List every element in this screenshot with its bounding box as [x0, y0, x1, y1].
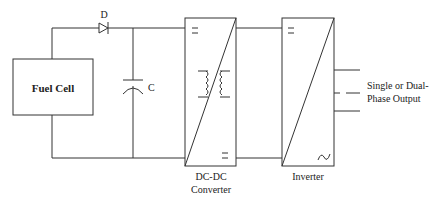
diode-label: D: [100, 9, 107, 20]
inverter-label: Inverter: [292, 171, 324, 182]
output-label-line2: Phase Output: [367, 93, 421, 104]
inverter-dc-symbol-icon: [288, 28, 294, 33]
dc-input-symbol-icon: [192, 28, 198, 33]
capacitor-label: C: [148, 82, 155, 93]
bottom-wire: [52, 115, 185, 158]
fuel-cell-label: Fuel Cell: [32, 82, 74, 94]
dcdc-label-line2: Converter: [191, 184, 232, 195]
top-wire-left: [52, 28, 99, 59]
dcdc-diagonal: [185, 18, 236, 166]
inverter-diagonal: [282, 18, 334, 166]
ac-sine-icon: [318, 154, 330, 160]
power-system-diagram: Fuel Cell D C DC-DC Converter Inverter S…: [0, 0, 440, 200]
diode-icon: [99, 22, 108, 34]
dcdc-label-line1: DC-DC: [195, 171, 226, 182]
capacitor-icon: [123, 28, 143, 158]
output-label-line1: Single or Dual-: [367, 80, 429, 91]
dc-output-symbol-icon: [222, 153, 228, 158]
transformer-icon: [198, 71, 230, 97]
